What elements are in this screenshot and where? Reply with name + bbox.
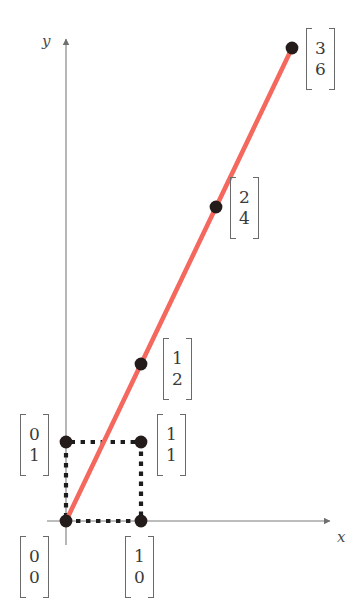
vector-bottom-value: 4	[239, 208, 250, 229]
bracket-right	[148, 536, 154, 598]
vector-label-1-0: 1 0	[125, 536, 154, 598]
vector-bottom-value: 1	[166, 445, 177, 466]
vector-bottom-value: 1	[29, 445, 40, 466]
point-2-4	[210, 201, 223, 214]
vector-top-value: 1	[172, 348, 183, 369]
unit-square-outline	[66, 442, 141, 521]
vector-values: 0 1	[26, 414, 43, 476]
bracket-right	[253, 177, 259, 239]
vector-top-value: 0	[29, 546, 40, 567]
vector-bottom-value: 2	[172, 369, 183, 390]
bracket-right	[43, 414, 49, 476]
vector-label-3-6: 3 6	[306, 28, 335, 90]
x-axis-label: x	[337, 528, 345, 546]
point-0-1	[60, 436, 73, 449]
vector-label-0-0: 0 0	[20, 536, 49, 598]
vector-label-1-1: 1 1	[157, 414, 186, 476]
bracket-right	[329, 28, 335, 90]
vector-top-value: 3	[315, 38, 326, 59]
vector-top-value: 1	[166, 424, 177, 445]
vector-label-1-2: 1 2	[163, 338, 192, 400]
point-0-0	[60, 515, 73, 528]
vector-bottom-value: 0	[29, 567, 40, 588]
point-1-0	[135, 515, 148, 528]
bracket-right	[180, 414, 186, 476]
vector-top-value: 2	[239, 187, 250, 208]
bracket-right	[43, 536, 49, 598]
point-3-6	[286, 42, 299, 55]
vector-bottom-value: 6	[315, 59, 326, 80]
vector-label-0-1: 0 1	[20, 414, 49, 476]
vector-bottom-value: 0	[134, 567, 145, 588]
vector-label-2-4: 2 4	[230, 177, 259, 239]
bracket-right	[186, 338, 192, 400]
vector-values: 2 4	[236, 177, 253, 239]
vector-plot-figure: y x 3 6 2 4 1 2 0 1	[0, 0, 364, 610]
plot-canvas	[0, 0, 364, 610]
vector-top-value: 0	[29, 424, 40, 445]
vector-values: 1 0	[131, 536, 148, 598]
y-axis-label: y	[42, 32, 50, 50]
vector-top-value: 1	[134, 546, 145, 567]
vector-values: 0 0	[26, 536, 43, 598]
point-1-1	[135, 436, 148, 449]
point-1-2	[135, 358, 148, 371]
vector-values: 1 1	[163, 414, 180, 476]
vector-values: 3 6	[312, 28, 329, 90]
vector-values: 1 2	[169, 338, 186, 400]
